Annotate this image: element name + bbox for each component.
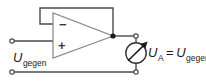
circuit-diagram: − + Ugegen UA=Ugegen <box>0 0 206 81</box>
output-voltage-operator: = <box>166 45 174 60</box>
output-voltage-equals-symbol: U <box>176 45 186 60</box>
input-voltage-label: Ugegen <box>13 50 47 68</box>
output-voltage-label: UA=Ugegen <box>148 45 206 63</box>
opamp-inverting-sign: − <box>59 17 67 32</box>
input-positive-terminal <box>10 39 14 43</box>
output-positive-terminal <box>134 34 138 38</box>
input-voltage-subscript: gegen <box>23 58 47 68</box>
input-voltage-symbol: U <box>13 50 23 65</box>
output-voltage-equals-subscript: gegen <box>186 53 206 63</box>
output-voltage-subscript: A <box>158 53 164 63</box>
opamp-noninverting-sign: + <box>58 38 66 53</box>
output-junction-node <box>110 33 115 38</box>
input-negative-terminal <box>10 70 14 74</box>
output-voltage-symbol: U <box>148 45 158 60</box>
output-negative-terminal <box>134 70 138 74</box>
circuit-schematic-svg: − + Ugegen UA=Ugegen <box>0 0 206 81</box>
